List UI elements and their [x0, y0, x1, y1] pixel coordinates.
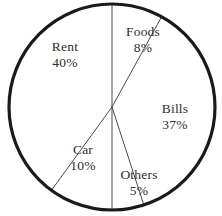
pie-chart-svg — [0, 0, 222, 216]
pie-chart: Foods 8% Bills 37% Others 5% Car 10% Ren… — [0, 0, 222, 216]
